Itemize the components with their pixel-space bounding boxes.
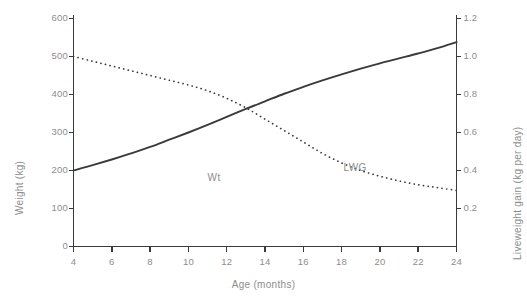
x-axis-tick-label: 10 <box>173 256 203 267</box>
x-axis-tick-label: 14 <box>250 256 280 267</box>
y-axis-right-tick-label: 0.8 <box>464 88 478 99</box>
series-group <box>74 42 457 190</box>
y-axis-left-tick-label: 100 <box>30 202 68 213</box>
y-axis-right-tick-label: 0.6 <box>464 126 478 137</box>
y-axis-right-tick-label: 1.2 <box>464 12 478 23</box>
y-axis-left-title: Weight (kg) <box>14 161 25 215</box>
y-axis-right-tick-label: 0.4 <box>464 164 478 175</box>
y-axis-right-tick-label: 0.2 <box>464 202 478 213</box>
series-line-wt <box>74 42 457 170</box>
x-axis-tick-label: 22 <box>403 256 433 267</box>
series-annotation-wt: Wt <box>208 172 221 183</box>
x-axis-tick-label: 6 <box>97 256 127 267</box>
x-axis-tick-label: 16 <box>288 256 318 267</box>
x-axis-tick-label: 24 <box>442 256 472 267</box>
chart-figure: 01002003004005006000.20.40.60.81.01.2468… <box>0 0 527 303</box>
y-axis-right-tick-label: 1.0 <box>464 50 478 61</box>
x-axis-tick-label: 12 <box>212 256 242 267</box>
x-axis-tick-label: 4 <box>59 256 89 267</box>
series-annotation-lwg: LWG <box>344 162 367 173</box>
series-line-lwg <box>74 57 457 191</box>
x-axis-tick-label: 20 <box>365 256 395 267</box>
y-axis-left-tick-label: 500 <box>30 50 68 61</box>
y-axis-left-tick-label: 200 <box>30 164 68 175</box>
y-axis-right-title: Liveweight gain (kg per day) <box>512 127 523 260</box>
x-axis-title: Age (months) <box>0 279 527 290</box>
x-axis-tick-label: 18 <box>327 256 357 267</box>
y-axis-left-tick-label: 300 <box>30 126 68 137</box>
y-axis-left-tick-label: 0 <box>30 240 68 251</box>
y-axis-left-tick-label: 600 <box>30 12 68 23</box>
x-axis-tick-label: 8 <box>135 256 165 267</box>
axes-group <box>69 15 461 252</box>
y-axis-left-tick-label: 400 <box>30 88 68 99</box>
